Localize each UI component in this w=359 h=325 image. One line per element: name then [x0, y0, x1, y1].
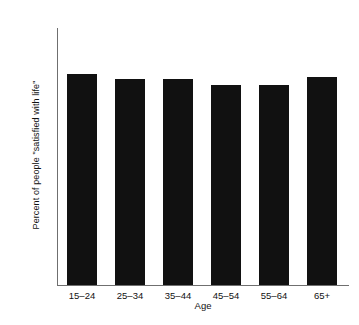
y-axis-title: Percent of people "satisfied with life"	[31, 35, 41, 275]
bar	[67, 74, 97, 285]
x-axis-line	[57, 285, 349, 286]
x-axis-title: Age	[57, 300, 349, 311]
bar	[211, 85, 241, 285]
bar	[307, 77, 337, 285]
bar	[115, 79, 145, 285]
plot-area: 100 90 80 70 60 50 40 30 20 10 15–24 25–…	[57, 28, 347, 285]
bar-chart: Percent of people "satisfied with life" …	[0, 0, 359, 325]
bar	[259, 85, 289, 285]
bar-series	[58, 28, 347, 285]
bar	[163, 79, 193, 285]
